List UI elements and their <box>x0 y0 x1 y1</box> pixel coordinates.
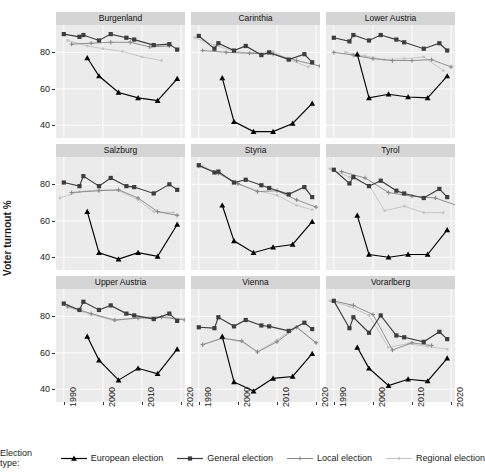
facet-styria: Styria <box>191 144 320 270</box>
x-axis-tick-mark <box>103 402 104 405</box>
x-axis-tick-mark <box>277 402 278 405</box>
facet-plot-area <box>326 157 455 270</box>
x-axis-tick-label: 2010 <box>146 387 156 407</box>
legend-item-general-election[interactable]: General election <box>177 453 273 464</box>
facet-strip-label: Carinthia <box>191 12 320 25</box>
y-axis-tick-label: 60 <box>0 348 50 358</box>
facet-strip-label: Lower Austria <box>326 12 455 25</box>
facet-salzburg: Salzburg <box>56 144 185 270</box>
legend-key-cross-icon <box>287 453 313 464</box>
y-axis-tick-label: 80 <box>0 179 50 189</box>
legend-label: Local election <box>317 453 372 463</box>
x-axis-tick-mark <box>238 402 239 405</box>
y-axis-tick-label: 80 <box>0 47 50 57</box>
legend-key-triangle-icon <box>61 453 87 464</box>
y-axis-tick-label: 60 <box>0 216 50 226</box>
x-axis-tick-label: 2000 <box>242 387 252 407</box>
legend-label: European election <box>91 453 164 463</box>
y-axis-tick-mark <box>52 221 55 222</box>
x-axis-tick-label: 1990 <box>338 387 348 407</box>
y-axis-title: Voter turnout % <box>0 0 16 476</box>
facet-upper-austria: Upper Austria <box>56 276 185 402</box>
facet-plot-area <box>326 25 455 138</box>
legend-item-regional-election[interactable]: Regional election <box>386 453 485 464</box>
x-axis-tick-label: 2020 <box>320 387 330 407</box>
facet-vienna: Vienna <box>191 276 320 402</box>
y-axis-tick-mark <box>52 184 55 185</box>
legend-item-local-election[interactable]: Local election <box>287 453 372 464</box>
x-axis-tick-label: 1990 <box>68 387 78 407</box>
y-axis-tick-mark <box>52 353 55 354</box>
facet-plot-area <box>56 289 185 402</box>
facet-plot-area <box>191 25 320 138</box>
x-axis-tick-label: 2020 <box>455 387 465 407</box>
x-axis-tick-mark <box>373 402 374 405</box>
x-axis-tick-label: 2010 <box>281 387 291 407</box>
facet-plot-area <box>326 289 455 402</box>
y-axis-tick-mark <box>52 125 55 126</box>
x-axis-tick-label: 2020 <box>185 387 195 407</box>
x-axis-tick-label: 2010 <box>416 387 426 407</box>
facet-strip-label: Upper Austria <box>56 276 185 289</box>
facet-carinthia: Carinthia <box>191 12 320 138</box>
y-axis-tick-label: 40 <box>0 252 50 262</box>
facet-lower-austria: Lower Austria <box>326 12 455 138</box>
x-axis-tick-label: 2000 <box>107 387 117 407</box>
facet-burgenland: Burgenland <box>56 12 185 138</box>
facet-grid: BurgenlandCarinthiaLower AustriaSalzburg… <box>56 12 455 408</box>
facet-plot-area <box>191 157 320 270</box>
facet-strip-label: Vorarlberg <box>326 276 455 289</box>
x-axis-tick-mark <box>199 402 200 405</box>
facet-strip-label: Vienna <box>191 276 320 289</box>
y-axis-tick-mark <box>52 316 55 317</box>
facet-strip-label: Tyrol <box>326 144 455 157</box>
facet-strip-label: Styria <box>191 144 320 157</box>
x-axis-tick-mark <box>64 402 65 405</box>
x-axis-tick-mark <box>334 402 335 405</box>
legend-label: General election <box>207 453 273 463</box>
facet-row: BurgenlandCarinthiaLower Austria <box>56 12 455 138</box>
chart-legend: Election type: European electionGeneral … <box>0 448 485 468</box>
y-axis-tick-mark <box>52 52 55 53</box>
y-axis-tick-label: 80 <box>0 311 50 321</box>
x-axis-tick-mark <box>451 402 452 405</box>
y-axis-tick-label: 60 <box>0 84 50 94</box>
y-axis-tick-label: 40 <box>0 384 50 394</box>
y-axis-tick-mark <box>52 257 55 258</box>
facet-row: Upper AustriaViennaVorarlberg <box>56 276 455 402</box>
facet-plot-area <box>56 25 185 138</box>
legend-title: Election type: <box>0 448 54 468</box>
y-axis-tick-label: 40 <box>0 120 50 130</box>
x-axis-tick-label: 1990 <box>203 387 213 407</box>
facet-tyrol: Tyrol <box>326 144 455 270</box>
y-axis-title-text: Voter turnout % <box>2 200 13 276</box>
y-axis-tick-mark <box>52 89 55 90</box>
x-axis-tick-mark <box>142 402 143 405</box>
facet-vorarlberg: Vorarlberg <box>326 276 455 402</box>
facet-plot-area <box>56 157 185 270</box>
facet-plot-area <box>191 289 320 402</box>
facet-row: SalzburgStyriaTyrol <box>56 144 455 270</box>
x-axis-tick-mark <box>181 402 182 405</box>
legend-key-dot-icon <box>386 453 412 464</box>
legend-key-square-icon <box>177 453 203 464</box>
x-axis-tick-label: 2000 <box>377 387 387 407</box>
facet-strip-label: Salzburg <box>56 144 185 157</box>
y-axis-tick-mark <box>52 389 55 390</box>
legend-label: Regional election <box>416 453 485 463</box>
legend-item-european-election[interactable]: European election <box>61 453 164 464</box>
facet-strip-label: Burgenland <box>56 12 185 25</box>
x-axis-tick-mark <box>316 402 317 405</box>
x-axis-tick-mark <box>412 402 413 405</box>
